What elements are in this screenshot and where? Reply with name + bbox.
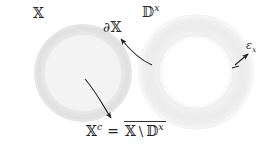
formula-setminus: \	[139, 124, 143, 139]
label-disk-base: 𝔻	[142, 4, 154, 20]
label-epsilon-subscript: x	[252, 45, 256, 54]
complement-formula: 𝕏c = 𝕏\𝔻x	[86, 121, 166, 139]
formula-rhs-first: 𝕏	[125, 123, 136, 139]
annulus-Dx	[138, 14, 254, 130]
label-disk-superscript: x	[154, 2, 160, 13]
label-epsilon-x: εx	[246, 40, 257, 51]
formula-lhs-superscript: c	[97, 121, 102, 132]
formula-lhs-base: 𝕏	[86, 123, 97, 139]
label-disk-Dx: 𝔻x	[142, 5, 160, 19]
topology-figure: 𝕏 ∂𝕏 𝔻x εx 𝕏c = 𝕏\𝔻x	[0, 0, 280, 147]
formula-closure-bar: 𝕏\𝔻x	[124, 121, 166, 139]
formula-lhs: 𝕏c	[86, 123, 102, 139]
formula-rhs-second-superscript: x	[158, 121, 163, 132]
label-space-X: 𝕏	[33, 6, 44, 20]
formula-rhs-second: 𝔻	[146, 123, 158, 139]
label-boundary-X: ∂𝕏	[103, 20, 122, 34]
formula-equals: =	[107, 123, 119, 139]
filled-disk-X	[34, 24, 132, 122]
